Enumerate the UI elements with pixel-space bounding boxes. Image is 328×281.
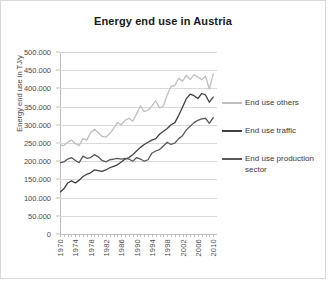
y-tick-mark xyxy=(56,88,60,89)
y-tick-mark xyxy=(56,52,60,53)
x-tick-mark xyxy=(68,234,69,237)
x-tick-label: 2002 xyxy=(179,239,188,257)
y-tick-label: 500.000 xyxy=(24,48,51,57)
x-tick-mark xyxy=(167,234,168,237)
y-tick-label: 0 xyxy=(47,230,51,239)
x-tick-label: 1970 xyxy=(56,239,65,257)
y-tick-label: 250.000 xyxy=(24,139,51,148)
x-tick-mark xyxy=(106,234,107,237)
x-tick-label: 1986 xyxy=(117,239,126,257)
x-tick-mark xyxy=(133,234,134,237)
legend-label: End use traffic xyxy=(245,125,296,136)
x-tick-mark xyxy=(87,234,88,237)
x-tick-mark xyxy=(148,234,149,237)
x-tick-mark xyxy=(171,234,172,237)
y-tick-mark xyxy=(56,124,60,125)
series-line xyxy=(60,118,213,163)
x-tick-mark xyxy=(198,234,199,237)
x-tick-mark xyxy=(91,234,92,237)
y-tick-mark xyxy=(56,161,60,162)
x-tick-mark xyxy=(79,234,80,237)
legend-label: End use others xyxy=(245,97,299,108)
x-tick-mark xyxy=(140,234,141,237)
x-tick-mark xyxy=(160,234,161,237)
x-tick-mark xyxy=(125,234,126,237)
series-line xyxy=(60,94,213,193)
y-tick-mark xyxy=(56,106,60,107)
y-tick-mark xyxy=(56,179,60,180)
x-axis-ticks xyxy=(60,234,217,238)
x-tick-mark xyxy=(190,234,191,237)
x-tick-label: 2006 xyxy=(194,239,203,257)
x-tick-mark xyxy=(156,234,157,237)
x-tick-mark xyxy=(114,234,115,237)
y-tick-label: 350.000 xyxy=(24,102,51,111)
legend-color-swatch xyxy=(222,158,242,160)
x-tick-label: 1994 xyxy=(148,239,157,257)
legend-label: End use production sector xyxy=(245,153,325,175)
x-tick-mark xyxy=(206,234,207,237)
x-tick-label: 2010 xyxy=(209,239,218,257)
x-tick-mark xyxy=(179,234,180,237)
x-tick-mark xyxy=(144,234,145,237)
y-tick-label: 400.000 xyxy=(24,84,51,93)
x-tick-label: 1978 xyxy=(87,239,96,257)
x-tick-mark xyxy=(209,234,210,237)
y-tick-mark xyxy=(56,143,60,144)
x-tick-label: 1974 xyxy=(71,239,80,257)
legend-item[interactable]: End use others xyxy=(222,97,326,108)
y-tick-label: 450.000 xyxy=(24,66,51,75)
y-tick-label: 100.000 xyxy=(24,193,51,202)
y-tick-mark xyxy=(56,234,60,235)
x-tick-mark xyxy=(83,234,84,237)
x-tick-mark xyxy=(117,234,118,237)
x-tick-mark xyxy=(183,234,184,237)
x-tick-mark xyxy=(102,234,103,237)
y-tick-label: 50.000 xyxy=(28,211,51,220)
x-tick-mark xyxy=(71,234,72,237)
x-tick-label: 1998 xyxy=(163,239,172,257)
y-tick-label: 150.000 xyxy=(24,175,51,184)
y-tick-label: 300.000 xyxy=(24,120,51,129)
x-tick-mark xyxy=(213,234,214,237)
chart-frame: Energy end use in Austria Energy end use… xyxy=(0,0,326,279)
x-tick-mark xyxy=(121,234,122,237)
x-tick-mark xyxy=(98,234,99,237)
legend-item[interactable]: End use production sector xyxy=(222,153,326,175)
y-tick-label: 200.000 xyxy=(24,157,51,166)
x-tick-label: 1990 xyxy=(133,239,142,257)
legend-item[interactable]: End use traffic xyxy=(222,125,326,136)
y-tick-mark xyxy=(56,197,60,198)
y-tick-mark xyxy=(56,70,60,71)
legend-color-swatch xyxy=(222,130,242,132)
x-tick-mark xyxy=(186,234,187,237)
x-tick-mark xyxy=(163,234,164,237)
series-line xyxy=(60,74,213,146)
x-tick-mark xyxy=(194,234,195,237)
series-lines xyxy=(60,52,217,234)
x-tick-label: 1982 xyxy=(102,239,111,257)
x-tick-mark xyxy=(202,234,203,237)
x-tick-mark xyxy=(110,234,111,237)
chart-title: Energy end use in Austria xyxy=(1,15,325,27)
y-axis-tick-labels: 050.000100.000150.000200.000250.000300.0… xyxy=(1,52,55,234)
x-tick-mark xyxy=(137,234,138,237)
x-tick-mark xyxy=(152,234,153,237)
x-tick-mark xyxy=(94,234,95,237)
legend: End use othersEnd use trafficEnd use pro… xyxy=(222,97,326,192)
y-tick-mark xyxy=(56,215,60,216)
legend-color-swatch xyxy=(222,102,242,104)
x-tick-mark xyxy=(129,234,130,237)
plot-area xyxy=(60,52,217,234)
x-axis-tick-labels: 1970197419781982198619901994199820022006… xyxy=(60,239,217,275)
x-tick-mark xyxy=(175,234,176,237)
x-tick-mark xyxy=(60,234,61,237)
x-tick-mark xyxy=(75,234,76,237)
x-tick-mark xyxy=(64,234,65,237)
